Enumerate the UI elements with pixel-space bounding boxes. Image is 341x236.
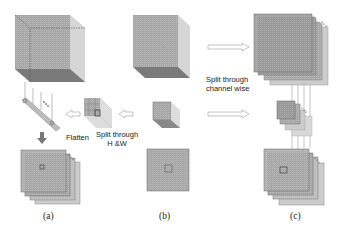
stacked-planes-c-top [254,14,328,85]
hollow-arrow-left-icon [119,110,133,118]
hw-split-block [84,98,112,128]
ellipsis-dots-icon [43,101,49,107]
split-channel-label: Split through channel wise [206,75,249,93]
down-arrow-icon [37,132,47,144]
hollow-arrow-right-icon [208,43,249,51]
split-hw-label: Split through H &W [96,130,138,148]
caption-c: (c) [290,211,301,221]
flatten-label: Flatten [66,133,89,142]
caption-b: (b) [159,211,170,221]
cube-b-small [153,102,180,128]
cube-b [133,15,190,78]
stacked-planes-a [21,150,80,204]
split-hw-label-line1: Split through [96,130,138,139]
plane-b [147,149,189,191]
split-channel-label-line2: channel wise [206,84,249,93]
caption-a: (a) [43,211,54,221]
stacked-planes-c-small [277,101,312,136]
split-hw-label-line2: H &W [96,139,138,148]
cube-a [15,15,85,82]
stacked-planes-c-bottom [264,149,324,205]
hollow-arrow-left-icon [66,110,80,118]
split-channel-label-line1: Split through [206,75,249,84]
diagram-canvas [0,0,341,236]
hollow-arrow-right-icon [208,110,249,118]
